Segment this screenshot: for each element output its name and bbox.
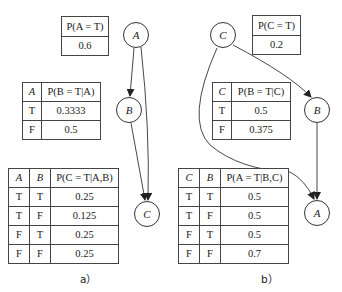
cpt-a-C: A B P(C = T|A,B) TT0.25 TF0.125 FT0.25 F… — [8, 168, 119, 264]
table-row: TT0.25 — [9, 188, 119, 207]
table-row: F0.375 — [213, 121, 291, 140]
node-a-B: B — [116, 97, 142, 123]
cpt-b-B: C P(B = T|C) T0.5 F0.375 — [212, 82, 291, 140]
node-a-C: C — [134, 201, 160, 227]
cpt-b-A: C B P(A = T|B,C) TT0.5 TF0.5 FT0.5 FF0.7 — [178, 168, 289, 264]
node-a-A: A — [123, 22, 149, 48]
table-row: TF0.125 — [9, 207, 119, 226]
table-row: F0.5 — [23, 121, 101, 140]
cpt-header: P(C = T) — [253, 16, 301, 36]
cpt-a-B: A P(B = T|A) T0.3333 F0.5 — [22, 82, 101, 140]
node-b-C: C — [210, 22, 236, 48]
cpt-b-C: P(C = T) 0.2 — [252, 15, 301, 55]
col-header-p2: B — [200, 169, 221, 188]
table-row: T0.5 — [213, 102, 291, 121]
col-header-p1: C — [179, 169, 200, 188]
table-row: FT0.5 — [179, 226, 289, 245]
node-b-A: A — [304, 200, 330, 226]
table-row: TF0.5 — [179, 207, 289, 226]
cpt-a-A: P(A = T) 0.6 — [61, 16, 109, 56]
col-header-parent: C — [213, 83, 232, 102]
col-header-prob: P(C = T|A,B) — [51, 169, 119, 188]
edge-a-B-C — [131, 123, 145, 200]
col-header-prob: P(A = T|B,C) — [221, 169, 289, 188]
table-row: T0.3333 — [23, 102, 101, 121]
cpt-header: P(A = T) — [62, 17, 109, 37]
col-header-parent: A — [23, 83, 42, 102]
node-b-B: B — [304, 97, 330, 123]
edge-a-A-B — [130, 48, 134, 96]
cpt-value: 0.2 — [253, 36, 301, 55]
table-row: FF0.25 — [9, 245, 119, 264]
col-header-p1: A — [9, 169, 30, 188]
caption-a: a） — [80, 271, 96, 286]
table-row: FF0.7 — [179, 245, 289, 264]
table-row: TT0.5 — [179, 188, 289, 207]
table-row: FT0.25 — [9, 226, 119, 245]
caption-b: b） — [261, 271, 278, 286]
edge-a-A-C — [141, 47, 148, 200]
col-header-prob: P(B = T|A) — [42, 83, 101, 102]
col-header-p2: B — [30, 169, 51, 188]
cpt-value: 0.6 — [62, 37, 109, 56]
col-header-prob: P(B = T|C) — [232, 83, 291, 102]
